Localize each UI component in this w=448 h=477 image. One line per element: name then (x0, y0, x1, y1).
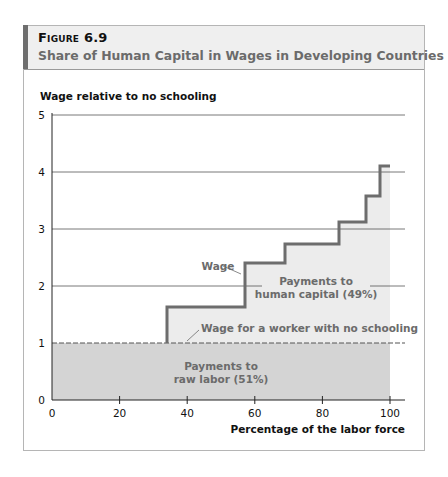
y-tick: 4 (38, 166, 45, 178)
y-tick: 5 (38, 109, 45, 121)
human-capital-label-line2: human capital (49%) (255, 288, 378, 300)
x-tick-labels: 0 20 40 60 80 100 (49, 407, 400, 419)
x-tick: 40 (181, 407, 194, 419)
y-tick: 2 (38, 280, 45, 292)
x-tick: 80 (316, 407, 329, 419)
x-tick: 100 (380, 407, 400, 419)
chart: Wage relative to no schooling 5 4 3 2 1 … (0, 0, 448, 477)
raw-labor-label-line1: Payments to (184, 360, 258, 372)
y-tick: 1 (38, 337, 45, 349)
x-tick: 20 (113, 407, 126, 419)
y-axis-label: Wage relative to no schooling (40, 90, 217, 102)
y-tick-labels: 5 4 3 2 1 0 (38, 109, 45, 406)
x-tick: 0 (49, 407, 56, 419)
human-capital-area (167, 166, 390, 343)
x-axis-label: Percentage of the labor force (231, 423, 405, 435)
human-capital-label-line1: Payments to (279, 275, 353, 287)
no-schooling-annotation: Wage for a worker with no schooling (201, 322, 418, 334)
y-tick: 0 (38, 394, 45, 406)
wage-annotation: Wage (202, 260, 235, 272)
raw-labor-label-line2: raw labor (51%) (174, 373, 269, 385)
x-tick: 60 (248, 407, 261, 419)
y-tick: 3 (38, 223, 45, 235)
